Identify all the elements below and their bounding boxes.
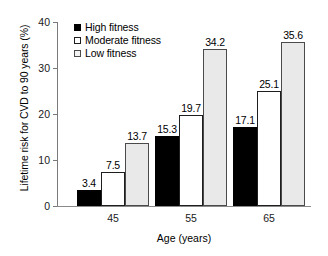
y-tick-mark <box>53 22 57 23</box>
bar-value-label: 3.4 <box>82 177 96 189</box>
bar-value-label: 17.1 <box>235 114 255 126</box>
y-tick-mark <box>53 114 57 115</box>
y-tick-mark <box>53 206 57 207</box>
bar-low-fitness-65[interactable]: 35.6 <box>281 42 305 206</box>
bar-value-label: 35.6 <box>283 29 303 41</box>
bar-value-label: 34.2 <box>205 36 225 48</box>
x-tick-label-55: 55 <box>185 212 197 224</box>
bar-value-label: 25.1 <box>259 78 279 90</box>
bar-high-fitness-65[interactable]: 17.1 <box>233 127 257 206</box>
y-tick-label: 30 <box>38 62 50 74</box>
legend-swatch-icon <box>74 50 81 57</box>
legend-item-moderate-fitness[interactable]: Moderate fitness <box>74 34 161 46</box>
legend-item-low-fitness[interactable]: Low fitness <box>74 47 161 59</box>
x-tick-label-65: 65 <box>263 212 275 224</box>
bar-high-fitness-55[interactable]: 15.3 <box>155 136 179 206</box>
legend-item-high-fitness[interactable]: High fitness <box>74 21 161 33</box>
bar-moderate-fitness-65[interactable]: 25.1 <box>257 91 281 206</box>
x-axis-line <box>57 206 311 207</box>
legend-swatch-icon <box>74 37 81 44</box>
y-tick-label: 0 <box>44 200 50 212</box>
y-tick-label: 10 <box>38 154 50 166</box>
legend-label: Moderate fitness <box>85 34 161 46</box>
bar-moderate-fitness-45[interactable]: 7.5 <box>101 172 125 207</box>
legend-swatch-icon <box>74 24 81 31</box>
y-tick-label: 40 <box>38 16 50 28</box>
chart-figure: Lifetime risk for CVD to 90 years (%) 0 … <box>0 0 328 256</box>
bar-value-label: 15.3 <box>157 123 177 135</box>
bar-group-65: 17.1 25.1 35.6 <box>233 22 305 206</box>
bar-high-fitness-45[interactable]: 3.4 <box>77 190 101 206</box>
bar-value-label: 7.5 <box>106 159 120 171</box>
bar-group-55: 15.3 19.7 34.2 <box>155 22 227 206</box>
x-axis-title: Age (years) <box>57 232 311 244</box>
legend-label: Low fitness <box>85 47 136 59</box>
y-tick-mark <box>53 68 57 69</box>
y-axis-title: Lifetime risk for CVD to 90 years (%) <box>16 8 32 208</box>
y-axis-line <box>57 22 58 206</box>
x-tick-label-45: 45 <box>107 212 119 224</box>
y-tick-label: 20 <box>38 108 50 120</box>
y-tick-mark <box>53 160 57 161</box>
bar-low-fitness-45[interactable]: 13.7 <box>125 143 149 206</box>
chart-legend: High fitness Moderate fitness Low fitnes… <box>74 21 161 59</box>
bar-moderate-fitness-55[interactable]: 19.7 <box>179 115 203 206</box>
legend-label: High fitness <box>85 21 139 33</box>
bar-value-label: 13.7 <box>127 130 147 142</box>
bar-low-fitness-55[interactable]: 34.2 <box>203 49 227 206</box>
bar-value-label: 19.7 <box>181 102 201 114</box>
